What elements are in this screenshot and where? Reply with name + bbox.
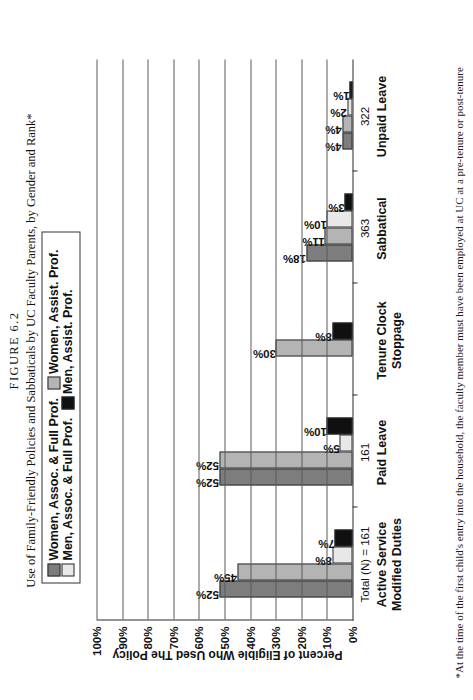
legend-label: Men, Assist. Prof. — [60, 289, 74, 393]
bar: 11% — [324, 227, 352, 244]
bar: 30% — [275, 339, 352, 356]
figure-title-block: FIGURE 6.2 Use of Family-Friendly Polici… — [6, 0, 38, 700]
bar-value-label: 30% — [252, 348, 275, 360]
plot-area: 52%45%8%7%52%52%5%10%30%8%18%11%10%3%4%4… — [96, 59, 353, 620]
gridline — [301, 59, 302, 619]
chart-legend: Women, Assoc. & Full Prof.Women, Assist.… — [41, 231, 80, 583]
y-axis-tick-label: 100% — [90, 626, 102, 655]
bar-value-label: 5% — [322, 443, 339, 455]
x-axis-category-label: Sabbatical — [374, 172, 389, 284]
bar: 3% — [344, 193, 352, 210]
axis-group-tick — [352, 506, 357, 507]
x-axis-category-label: Active Service — [374, 508, 389, 620]
x-axis-category-label: Tenure Clock — [374, 284, 389, 396]
x-axis-labels: Total (N) = 161Active ServiceModified Du… — [358, 60, 403, 620]
bar: 45% — [237, 563, 352, 580]
legend-label: Men, Assoc. & Full Prof. — [60, 417, 74, 560]
y-axis-tick-label: 90% — [116, 626, 128, 649]
figure-footnote: *At the time of the first child's entry … — [452, 16, 466, 678]
bar-value-label: 10% — [303, 219, 326, 231]
legend-label: Women, Assoc. & Full Prof. — [46, 397, 60, 560]
gridline — [147, 59, 148, 619]
y-axis-tick-label: 0% — [346, 626, 358, 643]
x-axis-category-label: Modified Duties — [389, 508, 404, 620]
y-axis-tick-label: 40% — [244, 626, 256, 649]
legend-swatch-icon — [47, 376, 60, 389]
category-sample-size — [358, 284, 371, 396]
y-axis-tick-label: 70% — [167, 626, 179, 649]
gridline — [275, 59, 276, 619]
legend-row: Men, Assoc. & Full Prof.Men, Assist. Pro… — [60, 238, 74, 576]
x-axis-category-label: Stoppage — [389, 284, 404, 396]
figure-page-frame: FIGURE 6.2 Use of Family-Friendly Polici… — [0, 0, 473, 700]
axis-group-tick — [352, 170, 357, 171]
x-axis-category: Total (N) = 161Active ServiceModified Du… — [358, 508, 403, 620]
bar: 10% — [326, 417, 352, 434]
axis-group-tick — [352, 282, 357, 283]
gridline — [326, 59, 327, 619]
legend-entry: Men, Assoc. & Full Prof. — [60, 417, 74, 576]
x-axis-category-label: Paid Leave — [374, 396, 389, 508]
category-sample-size: 322 — [358, 60, 371, 172]
gridline — [96, 59, 97, 619]
x-axis-category: 322Unpaid Leave — [358, 60, 403, 172]
bar: 52% — [219, 580, 352, 597]
x-axis-category: Tenure ClockStoppage — [358, 284, 403, 396]
figure-number: FIGURE 6.2 — [6, 0, 21, 700]
category-sample-size: 161 — [358, 396, 371, 508]
legend-entry: Women, Assist. Prof. — [46, 249, 60, 389]
bar-value-label: 2% — [330, 107, 347, 119]
legend-swatch-icon — [61, 396, 74, 409]
bar-value-label: 8% — [315, 331, 332, 343]
y-axis-tick-label: 20% — [295, 626, 307, 649]
bar: 8% — [332, 322, 352, 339]
bar-value-label: 10% — [303, 426, 326, 438]
y-axis-tick-label: 30% — [269, 626, 281, 649]
legend-label: Women, Assist. Prof. — [46, 249, 60, 373]
legend-entry: Women, Assoc. & Full Prof. — [46, 397, 60, 576]
y-axis-ticks: 0%10%20%30%40%50%60%70%80%90%100% — [96, 622, 352, 664]
bar-value-label: 3% — [328, 202, 345, 214]
bar: 1% — [349, 81, 352, 98]
x-axis-category: 161Paid Leave — [358, 396, 403, 508]
legend-entry: Men, Assist. Prof. — [60, 289, 74, 409]
legend-row: Women, Assoc. & Full Prof.Women, Assist.… — [46, 238, 60, 576]
gridline — [122, 59, 123, 619]
bar: 7% — [334, 529, 352, 546]
plot-area-wrapper: Percent of Eligible Who Used The Policy … — [96, 0, 396, 700]
category-sample-size: 363 — [358, 172, 371, 284]
bar: 5% — [339, 434, 352, 451]
bar: 52% — [219, 468, 352, 485]
gridline — [198, 59, 199, 619]
gridline — [224, 59, 225, 619]
y-axis-tick-label: 10% — [320, 626, 332, 649]
bar-value-label: 11% — [302, 236, 324, 248]
axis-group-tick — [352, 394, 357, 395]
y-axis-tick-label: 50% — [218, 626, 230, 649]
bar-value-label: 18% — [283, 253, 306, 265]
x-axis-category-label: Unpaid Leave — [374, 60, 389, 172]
y-axis-tick-label: 60% — [192, 626, 204, 649]
gridline — [173, 59, 174, 619]
bar-value-label: 7% — [317, 538, 334, 550]
figure-caption: Use of Family-Friendly Policies and Sabb… — [23, 0, 38, 700]
gridline — [250, 59, 251, 619]
category-sample-size: Total (N) = 161 — [358, 508, 371, 620]
bar-value-label: 1% — [333, 90, 350, 102]
bar-value-label: 8% — [315, 555, 332, 567]
x-axis-category: 363Sabbatical — [358, 172, 403, 284]
legend-swatch-icon — [61, 563, 74, 576]
y-axis-tick-label: 80% — [141, 626, 153, 649]
figure-page: FIGURE 6.2 Use of Family-Friendly Polici… — [0, 0, 473, 700]
legend-swatch-icon — [47, 563, 60, 576]
bar: 4% — [342, 132, 352, 149]
